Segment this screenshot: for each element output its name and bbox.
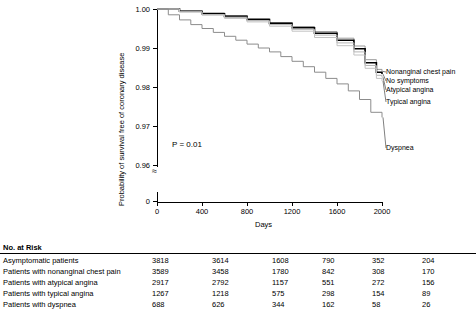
risk-row-value: 790 xyxy=(322,256,364,265)
risk-row-value: 204 xyxy=(422,256,464,265)
curve-label-nonanginal-chest-pain: Nonanginal chest pain xyxy=(386,68,455,75)
risk-row-value: 3589 xyxy=(152,267,194,276)
risk-row-value: 3458 xyxy=(212,267,254,276)
risk-table-row: Patients with atypical angina29172792115… xyxy=(0,278,476,289)
curve-label-atypical-angina: Atypical angina xyxy=(386,86,433,93)
risk-row-value: 154 xyxy=(372,289,414,298)
risk-table-title: No. at Risk xyxy=(3,243,42,252)
risk-row-value: 1608 xyxy=(272,256,314,265)
survival-curves xyxy=(0,0,476,240)
risk-row-value: 2917 xyxy=(152,278,194,287)
risk-row-label: Patients with typical angina xyxy=(3,289,93,298)
risk-row-value: 298 xyxy=(322,289,364,298)
risk-row-value: 344 xyxy=(272,300,314,309)
curve-label-dyspnea: Dyspnea xyxy=(386,144,414,151)
risk-row-value: 1780 xyxy=(272,267,314,276)
risk-row-value: 352 xyxy=(372,256,414,265)
risk-row-value: 1267 xyxy=(152,289,194,298)
risk-row-value: 575 xyxy=(272,289,314,298)
risk-row-value: 3818 xyxy=(152,256,194,265)
curve-label-typical-angina: Typical angina xyxy=(386,98,431,105)
curve-label-no-symptoms: No symptoms xyxy=(386,77,429,84)
risk-row-value: 26 xyxy=(422,300,464,309)
risk-table-row: Asymptomatic patients3818361416087903522… xyxy=(0,256,476,267)
risk-row-value: 842 xyxy=(322,267,364,276)
curve-no-symptoms xyxy=(157,9,382,74)
plot-area: Probability of survival free of coronary… xyxy=(0,0,476,240)
risk-row-value: 2792 xyxy=(212,278,254,287)
risk-row-label: Asymptomatic patients xyxy=(3,256,78,265)
risk-table-row: Patients with dyspnea6886263441625826 xyxy=(0,300,476,311)
risk-table-row: Patients with nonanginal chest pain35893… xyxy=(0,267,476,278)
risk-row-value: 162 xyxy=(322,300,364,309)
risk-table-row: Patients with typical angina126712185752… xyxy=(0,289,476,300)
risk-row-label: Patients with nonanginal chest pain xyxy=(3,267,121,276)
risk-row-value: 156 xyxy=(422,278,464,287)
risk-row-value: 89 xyxy=(422,289,464,298)
risk-row-value: 626 xyxy=(212,300,254,309)
risk-row-value: 3614 xyxy=(212,256,254,265)
risk-row-value: 58 xyxy=(372,300,414,309)
risk-row-value: 1157 xyxy=(272,278,314,287)
risk-row-value: 688 xyxy=(152,300,194,309)
risk-row-label: Patients with dyspnea xyxy=(3,300,76,309)
risk-row-value: 551 xyxy=(322,278,364,287)
risk-row-value: 1218 xyxy=(212,289,254,298)
risk-row-value: 308 xyxy=(372,267,414,276)
risk-row-value: 170 xyxy=(422,267,464,276)
risk-row-value: 272 xyxy=(372,278,414,287)
risk-row-label: Patients with atypical angina xyxy=(3,278,98,287)
risk-table-rule xyxy=(0,253,476,254)
